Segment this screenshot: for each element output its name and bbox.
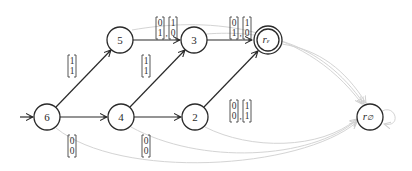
vector-entry: 0 bbox=[144, 136, 149, 146]
transition-label-vector: 00 bbox=[142, 135, 150, 157]
vector-entry: 1 bbox=[245, 111, 250, 121]
state-5-label: 5 bbox=[117, 34, 123, 46]
automaton-diagram: 6 5 4 3 2 rε r∅ 110001,10110001,1000,11 bbox=[0, 0, 412, 171]
vector-entry: 0 bbox=[70, 136, 75, 146]
vector-entry: 1 bbox=[245, 101, 250, 111]
vector-entry: 0 bbox=[232, 18, 237, 28]
state-6-label: 6 bbox=[44, 111, 50, 123]
edge-2-reps bbox=[204, 51, 258, 107]
ghost-edge-3-sink bbox=[206, 33, 364, 104]
vector-entry: 1 bbox=[70, 66, 75, 76]
transition-label-vector: 00 bbox=[68, 135, 76, 157]
vector-entry: 1 bbox=[171, 18, 176, 28]
vector-entry: 0 bbox=[171, 28, 176, 38]
label-separator: , bbox=[240, 28, 242, 38]
transition-label-vector: 01 bbox=[156, 17, 164, 39]
state-3: 3 bbox=[181, 27, 207, 53]
state-4-label: 4 bbox=[118, 111, 124, 123]
ghost-edge-2-sink bbox=[205, 119, 357, 143]
vector-entry: 0 bbox=[232, 111, 237, 121]
vector-entry: 0 bbox=[245, 28, 250, 38]
transition-label-vector: 11 bbox=[243, 100, 251, 122]
vector-entry: 1 bbox=[158, 28, 163, 38]
vector-entry: 0 bbox=[144, 146, 149, 156]
vector-entry: 0 bbox=[232, 101, 237, 111]
transition-label-vector: 10 bbox=[169, 17, 177, 39]
state-2-label: 2 bbox=[192, 111, 198, 123]
edge-4-3 bbox=[130, 50, 185, 107]
state-6: 6 bbox=[34, 104, 60, 130]
edge-6-5 bbox=[56, 50, 111, 107]
state-4: 4 bbox=[108, 104, 134, 130]
vector-entry: 1 bbox=[144, 56, 149, 66]
state-r-epsilon-accepting: rε bbox=[254, 26, 282, 54]
vector-entry: 1 bbox=[245, 18, 250, 28]
state-5: 5 bbox=[107, 27, 133, 53]
ghost-self-loop-sink bbox=[382, 110, 395, 125]
vector-entry: 1 bbox=[144, 66, 149, 76]
transition-label-vector: 11 bbox=[68, 55, 76, 77]
ghost-edge-4-sink bbox=[131, 120, 357, 153]
vector-entry: 1 bbox=[70, 56, 75, 66]
transition-label-vector: 10 bbox=[243, 17, 251, 39]
vector-entry: 1 bbox=[232, 28, 237, 38]
label-separator: , bbox=[166, 28, 168, 38]
vector-entry: 0 bbox=[158, 18, 163, 28]
state-3-label: 3 bbox=[191, 34, 197, 46]
vector-entry: 0 bbox=[70, 146, 75, 156]
transition-label-vector: 11 bbox=[142, 55, 150, 77]
ghost-edge-reps-sink bbox=[282, 44, 366, 103]
faded-sink-transitions bbox=[56, 25, 395, 163]
state-2: 2 bbox=[182, 104, 208, 130]
transition-label-vector: 00 bbox=[230, 100, 238, 122]
state-r-empty-sink: r∅ bbox=[357, 104, 383, 130]
label-separator: , bbox=[240, 111, 242, 121]
